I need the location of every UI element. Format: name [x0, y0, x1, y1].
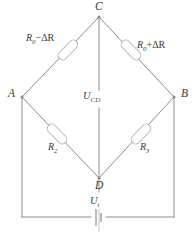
- node-dot-c: [97, 15, 100, 18]
- resistor-label-cb: R0+ΔR: [137, 40, 165, 53]
- node-label-d: D: [95, 180, 103, 192]
- node-label-a: A: [8, 88, 15, 100]
- resistor-label-db-sub: 3: [146, 147, 149, 154]
- voltage-label-ucd-sub: CD: [91, 96, 101, 104]
- node-label-c: C: [95, 1, 103, 13]
- battery-icon: [96, 209, 101, 232]
- voltage-label-ui-main: U: [90, 195, 98, 206]
- resistor-body-ac: [56, 38, 79, 62]
- resistor-label-db: R3: [140, 142, 150, 155]
- circuit-diagram: C A B D R0−ΔR R0+ΔR R2 R3 UCD Ui: [0, 0, 196, 237]
- node-label-b: B: [181, 88, 188, 100]
- voltage-label-ui-sub: i: [98, 201, 100, 209]
- node-dot-a: [20, 95, 23, 98]
- resistor-label-ad: R2: [48, 142, 58, 155]
- voltage-label-ucd: UCD: [83, 91, 101, 104]
- resistor-label-ad-sub: 2: [54, 147, 57, 154]
- node-dot-b: [172, 95, 175, 98]
- resistor-label-ac-tail: −ΔR: [36, 32, 55, 43]
- voltage-label-ui: Ui: [90, 196, 100, 209]
- resistor-label-ac: R0−ΔR: [26, 33, 54, 46]
- resistor-label-cb-tail: +ΔR: [147, 39, 166, 50]
- voltage-label-ucd-main: U: [83, 90, 91, 101]
